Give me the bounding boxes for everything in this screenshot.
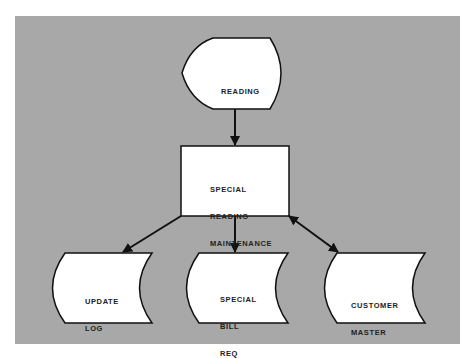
maintenance-label: SPECIAL READING MAINTENANCE [210, 167, 272, 257]
label-line: BILL [220, 322, 257, 331]
label-line: READING [210, 212, 272, 221]
label-line: UPDATE [85, 297, 119, 306]
arrow-maintenance-customer-master-bidirectional [289, 216, 338, 252]
arrow-maintenance-to-update-log [123, 216, 181, 252]
label-line: MAINTENANCE [210, 239, 272, 248]
update-log-label: UPDATE LOG [85, 279, 119, 342]
reading-label: READING [221, 69, 260, 105]
label-line: REQ [220, 349, 257, 358]
bill-req-label: SPECIAL BILL REQ [220, 277, 257, 358]
label-line: LOG [85, 324, 119, 333]
customer-master-label: CUSTOMER MASTER [351, 283, 399, 346]
label-line: READING [221, 87, 260, 96]
label-line: SPECIAL [210, 185, 272, 194]
label-line: SPECIAL [220, 295, 257, 304]
label-line: CUSTOMER [351, 301, 399, 310]
label-line: MASTER [351, 328, 399, 337]
